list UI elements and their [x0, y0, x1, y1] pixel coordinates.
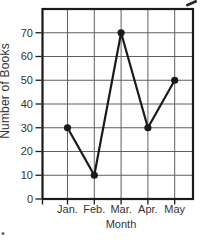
y-tick-label: 40 — [21, 98, 33, 110]
x-tick-label: Feb. — [83, 203, 105, 215]
y-tick-label: 50 — [21, 74, 33, 86]
grid-layer — [43, 9, 194, 199]
y-tick-label: 30 — [21, 122, 33, 134]
line-chart: 010203040506070Jan.Feb.Mar.Apr.May Numbe… — [0, 0, 205, 240]
data-point-marker — [144, 124, 151, 131]
y-tick-label: 70 — [21, 27, 33, 39]
tick-labels-layer: 010203040506070Jan.Feb.Mar.Apr.May — [21, 27, 186, 215]
scan-speck — [1, 232, 4, 235]
x-tick-label: Jan. — [57, 203, 78, 215]
scan-artifact-mark — [188, 2, 196, 6]
x-axis-title: Month — [106, 218, 137, 230]
y-tick-label: 20 — [21, 145, 33, 157]
chart-page: 010203040506070Jan.Feb.Mar.Apr.May Numbe… — [0, 0, 205, 240]
y-tick-label: 0 — [27, 193, 33, 205]
y-axis-title: Number of Books — [0, 43, 12, 139]
data-point-marker — [118, 29, 125, 36]
data-point-marker — [171, 77, 178, 84]
x-tick-label: Mar. — [110, 203, 131, 215]
x-tick-label: May — [164, 203, 185, 215]
data-point-marker — [91, 172, 98, 179]
y-tick-label: 60 — [21, 50, 33, 62]
x-tick-label: Apr. — [138, 203, 158, 215]
y-tick-label: 10 — [21, 169, 33, 181]
data-point-marker — [64, 124, 71, 131]
